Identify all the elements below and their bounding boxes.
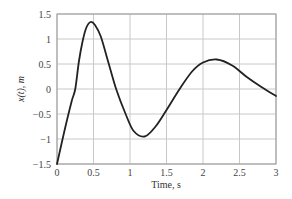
y-tick-label: −1 xyxy=(40,134,51,145)
x-tick-label: 1.5 xyxy=(160,167,173,178)
x-axis-label: Time, s xyxy=(151,179,181,190)
line-chart: 00.511.522.53 1.510.50−0.5−1−1.5 Time, s… xyxy=(0,0,292,199)
y-tick-label: −1.5 xyxy=(33,159,51,170)
y-tick-label: 0.5 xyxy=(39,59,52,70)
y-tick-label: 0 xyxy=(46,84,51,95)
x-axis-ticks: 00.511.522.53 xyxy=(55,167,279,178)
y-axis-label: x(t), m xyxy=(15,76,27,103)
x-tick-label: 3 xyxy=(274,167,279,178)
y-tick-label: 1.5 xyxy=(39,9,52,20)
y-tick-label: −0.5 xyxy=(33,109,51,120)
x-tick-label: 0 xyxy=(55,167,60,178)
x-tick-label: 2 xyxy=(201,167,206,178)
grid-lines xyxy=(57,14,276,164)
y-axis-ticks: 1.510.50−0.5−1−1.5 xyxy=(33,9,51,170)
y-tick-label: 1 xyxy=(46,34,51,45)
x-tick-label: 2.5 xyxy=(233,167,246,178)
x-tick-label: 1 xyxy=(128,167,133,178)
x-tick-label: 0.5 xyxy=(87,167,100,178)
